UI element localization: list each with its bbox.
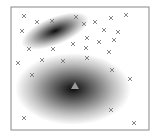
x-icon [109,16,113,20]
x-icon [20,29,24,33]
x-icon [112,38,116,42]
x-icon [22,116,26,120]
x-icon [116,30,120,34]
x-icon [93,20,97,24]
x-icon [97,40,101,44]
x-icon [85,36,89,40]
x-icon [102,28,106,32]
x-icon [16,61,20,65]
x-icon [51,47,55,51]
x-icon [35,20,39,24]
x-icon [84,46,88,50]
x-icon [107,50,111,54]
x-icon [71,42,75,46]
x-icon [132,121,136,125]
x-icon [22,14,26,18]
clustering-diagram [0,0,159,137]
x-icon [124,13,128,17]
